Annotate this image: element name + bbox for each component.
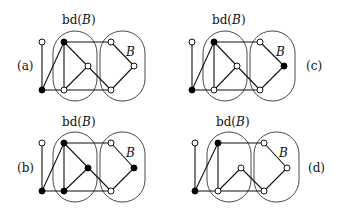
node-bottom-left-a xyxy=(39,87,45,93)
bd-label-a: bd(B) xyxy=(62,13,96,27)
bd-label-b: bd(B) xyxy=(62,115,96,129)
panel-d: (d) bd(B) B xyxy=(192,115,325,202)
panel-label-d: (d) xyxy=(308,161,325,175)
node-bottom-mid-d xyxy=(215,188,221,194)
node-bottom-mid-a xyxy=(61,87,67,93)
node-bottom-mid-b xyxy=(61,188,67,194)
node-bottom-mid-c xyxy=(211,87,217,93)
node-top-left-d xyxy=(192,140,198,146)
node-top-black-c xyxy=(211,39,217,45)
node-top-black-a xyxy=(61,39,67,45)
node-bottom-right-c xyxy=(257,87,263,93)
node-top-black-b xyxy=(61,140,67,146)
panel-label-a: (a) xyxy=(17,59,34,73)
set-label-b: B xyxy=(125,146,135,160)
node-right-c xyxy=(281,63,287,69)
node-mid-c xyxy=(234,63,240,69)
set-label-c: B xyxy=(275,45,285,59)
panel-b: (b) bd(B) B xyxy=(17,115,145,202)
bd-label-c: bd(B) xyxy=(212,13,246,27)
node-mid-d xyxy=(238,165,244,171)
node-top-left-c xyxy=(189,39,195,45)
node-right-b xyxy=(131,165,137,171)
set-label-a: B xyxy=(125,45,135,59)
node-bottom-right-a xyxy=(108,87,114,93)
figure-canvas: (a) bd(B) B (c) bd(B) B xyxy=(0,0,338,212)
panel-label-c: (c) xyxy=(306,59,322,73)
node-mid-b xyxy=(85,165,91,171)
node-mid-a xyxy=(85,63,91,69)
node-top-right-b xyxy=(108,140,114,146)
node-top-right-d xyxy=(261,140,267,146)
node-top-left-a xyxy=(39,39,45,45)
panel-a: (a) bd(B) B xyxy=(17,13,145,101)
node-top-left-b xyxy=(39,140,45,146)
node-right-a xyxy=(131,63,137,69)
set-label-d: B xyxy=(278,146,288,160)
node-top-right-c xyxy=(257,39,263,45)
node-bottom-left-d xyxy=(192,188,198,194)
node-top-black-d xyxy=(215,140,221,146)
node-top-right-a xyxy=(108,39,114,45)
node-bottom-left-b xyxy=(39,188,45,194)
bd-label-d: bd(B) xyxy=(216,115,250,129)
node-bottom-left-c xyxy=(189,87,195,93)
panel-label-b: (b) xyxy=(17,161,34,175)
node-right-d xyxy=(284,165,290,171)
node-bottom-right-b xyxy=(108,188,114,194)
panel-c: (c) bd(B) B xyxy=(189,13,322,101)
node-bottom-right-d xyxy=(261,188,267,194)
